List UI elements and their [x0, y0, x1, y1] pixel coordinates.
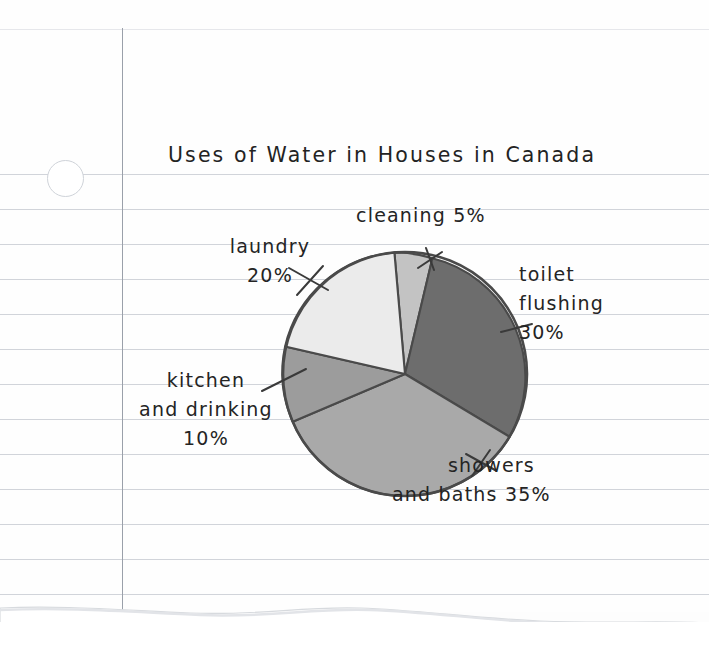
margin-line — [122, 28, 123, 612]
rule-line — [0, 524, 709, 525]
page-below-paper — [0, 622, 709, 651]
rule-line — [0, 174, 709, 175]
pie-label-showers-and-baths: showers and baths 35% — [448, 451, 535, 480]
pie-label-kitchen-and-drinking: kitchen and drinking 10% — [130, 366, 282, 453]
page-title: Uses of Water in Houses in Canada — [168, 143, 596, 167]
pie-label-toilet-flushing: toilet flushing 30% — [519, 260, 604, 347]
notebook-page: Uses of Water in Houses in Canada — [0, 0, 709, 651]
pie-label-laundry: laundry 20% — [222, 232, 318, 290]
rule-line — [0, 29, 709, 30]
rule-line — [0, 559, 709, 560]
pie-label-cleaning: cleaning 5% — [356, 201, 486, 230]
rule-line — [0, 209, 709, 210]
rule-line — [0, 244, 709, 245]
rule-line — [0, 594, 709, 595]
hole-punch — [47, 160, 84, 197]
